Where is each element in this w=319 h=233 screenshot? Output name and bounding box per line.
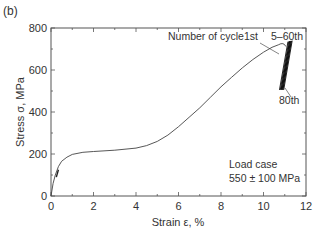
annotation-load-value: 550 ± 100 MPa xyxy=(229,172,300,184)
x-tick-label: 2 xyxy=(90,200,96,212)
y-tick-label: 400 xyxy=(29,106,47,118)
y-tick-label: 200 xyxy=(29,148,47,160)
x-tick-label: 12 xyxy=(300,200,312,212)
panel-label: (b) xyxy=(3,4,18,18)
x-axis-label: Strain ε, % xyxy=(152,216,205,228)
annotation-5-60th: 5–60th xyxy=(271,30,303,42)
annotation-1st: 1st xyxy=(244,30,258,42)
x-tick-label: 10 xyxy=(257,200,269,212)
x-tick-label: 6 xyxy=(175,200,181,212)
y-axis-label: Stress σ, MPa xyxy=(14,76,26,147)
x-tick-label: 8 xyxy=(218,200,224,212)
y-tick-label: 800 xyxy=(29,22,47,34)
annotation-load-case: Load case xyxy=(229,158,278,170)
x-tick-label: 4 xyxy=(133,200,139,212)
axis-ticks xyxy=(51,28,306,196)
y-tick-label: 0 xyxy=(41,190,47,202)
cycle-line xyxy=(282,41,291,90)
chart: (b) 0246810120200400600800 Stress σ, MPa… xyxy=(0,0,319,233)
plot-frame xyxy=(51,28,306,196)
y-tick-label: 600 xyxy=(29,64,47,76)
annotation-number-of-cycle: Number of cycle xyxy=(168,30,244,42)
annotation-80th: 80th xyxy=(279,94,300,106)
x-tick-label: 0 xyxy=(48,200,54,212)
